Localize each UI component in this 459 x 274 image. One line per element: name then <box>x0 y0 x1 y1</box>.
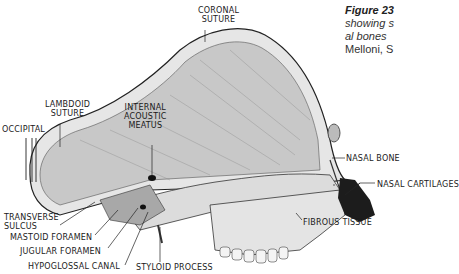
label-line: MEATUS <box>124 121 167 130</box>
label-line: TRANSVERSE <box>4 213 59 222</box>
label-nasal-cartilages: NASAL CARTILAGES <box>377 180 459 189</box>
caption-line: al bones <box>345 30 394 43</box>
label-line: SUTURE <box>45 109 90 118</box>
label-line: INTERNAL <box>124 103 167 112</box>
label-line: SUTURE <box>198 15 239 24</box>
caption-credit: Melloni, S <box>345 43 394 56</box>
label-line: CORONAL <box>198 6 239 15</box>
label-nasal-bone: NASAL BONE <box>346 154 400 163</box>
label-mastoid-foramen: MASTOID FORAMEN <box>10 233 92 242</box>
label-styloid-process: STYLOID PROCESS <box>136 263 213 272</box>
label-coronal-suture: CORONAL SUTURE <box>198 6 239 24</box>
label-jugular-foramen: JUGULAR FORAMEN <box>20 247 101 256</box>
label-line: ACOUSTIC <box>124 112 167 121</box>
figure-number: Figure 23 <box>345 4 394 17</box>
figure-caption: Figure 23 showing s al bones Melloni, S <box>345 4 394 56</box>
label-line: SULCUS <box>4 222 59 231</box>
caption-line: showing s <box>345 17 394 30</box>
label-fibrous-tissue: FIBROUS TISSUE <box>303 218 372 227</box>
label-lambdoid-suture: LAMBDOID SUTURE <box>45 100 90 118</box>
label-hypoglossal-canal: HYPOGLOSSAL CANAL <box>28 262 120 271</box>
label-transverse-sulcus: TRANSVERSE SULCUS <box>4 213 59 231</box>
label-line: LAMBDOID <box>45 100 90 109</box>
label-internal-acoustic-meatus: INTERNAL ACOUSTIC MEATUS <box>124 103 167 130</box>
label-occipital: OCCIPITAL <box>2 125 45 134</box>
